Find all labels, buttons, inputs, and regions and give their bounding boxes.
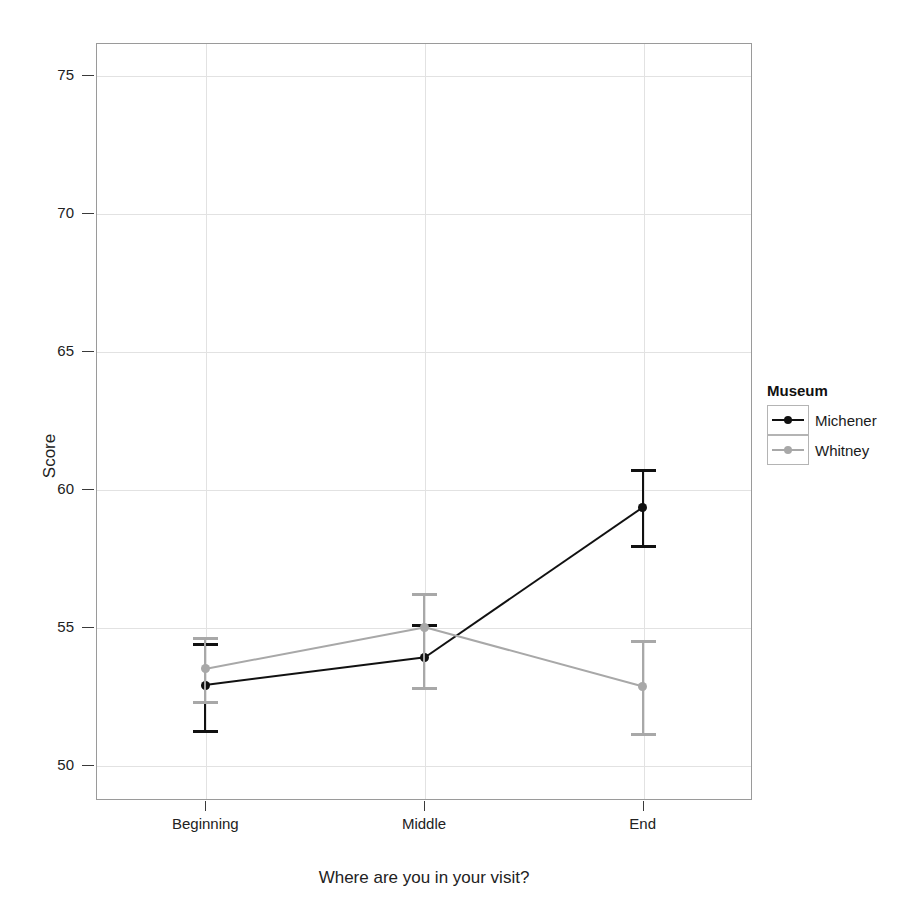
x-axis-title: Where are you in your visit? (96, 868, 752, 888)
legend-label-michener: Michener (815, 412, 877, 429)
y-axis-tick-label: 55 (14, 619, 74, 634)
x-axis-tick-label: Beginning (125, 815, 285, 832)
legend-key-michener (767, 405, 809, 435)
error-bar-cap-whitney (631, 640, 656, 643)
x-axis-tick (205, 801, 206, 811)
error-bar-cap-whitney (412, 593, 437, 596)
y-gridline (97, 214, 751, 215)
legend-key-whitney (767, 435, 809, 465)
y-axis-tick (82, 765, 94, 766)
data-point-michener (638, 503, 647, 512)
y-gridline (97, 490, 751, 491)
y-axis-tick-label: 60 (14, 481, 74, 496)
y-axis-tick-label: 65 (14, 343, 74, 358)
y-axis-tick-label: 50 (14, 757, 74, 772)
y-axis-tick (82, 351, 94, 352)
x-axis-tick (643, 801, 644, 811)
x-axis-tick-label: Middle (344, 815, 504, 832)
y-axis-tick (82, 213, 94, 214)
y-gridline (97, 766, 751, 767)
error-bar-cap-michener (631, 545, 656, 548)
error-bar-cap-michener (631, 469, 656, 472)
legend: Museum Michener Whitney (767, 382, 907, 465)
error-bar-cap-whitney (193, 701, 218, 704)
line-chart-figure: Score Where are you in your visit? Museu… (0, 0, 910, 911)
y-axis-tick (82, 489, 94, 490)
data-point-whitney (420, 623, 429, 632)
y-gridline (97, 76, 751, 77)
error-bar-cap-whitney (193, 637, 218, 640)
legend-item-whitney[interactable]: Whitney (767, 435, 907, 465)
x-axis-tick-label: End (563, 815, 723, 832)
y-axis-tick (82, 75, 94, 76)
legend-title: Museum (767, 382, 907, 399)
x-gridline (425, 44, 426, 799)
y-axis-tick-label: 75 (14, 67, 74, 82)
legend-item-michener[interactable]: Michener (767, 405, 907, 435)
error-bar-cap-whitney (412, 687, 437, 690)
error-bar-cap-whitney (631, 733, 656, 736)
y-axis-tick-label: 70 (14, 205, 74, 220)
legend-label-whitney: Whitney (815, 442, 869, 459)
y-axis-title: Score (40, 433, 60, 477)
x-axis-tick (424, 801, 425, 811)
y-gridline (97, 352, 751, 353)
error-bar-whitney (423, 594, 425, 688)
y-axis-tick (82, 627, 94, 628)
chart-title (0, 0, 910, 4)
error-bar-cap-michener (193, 730, 218, 733)
